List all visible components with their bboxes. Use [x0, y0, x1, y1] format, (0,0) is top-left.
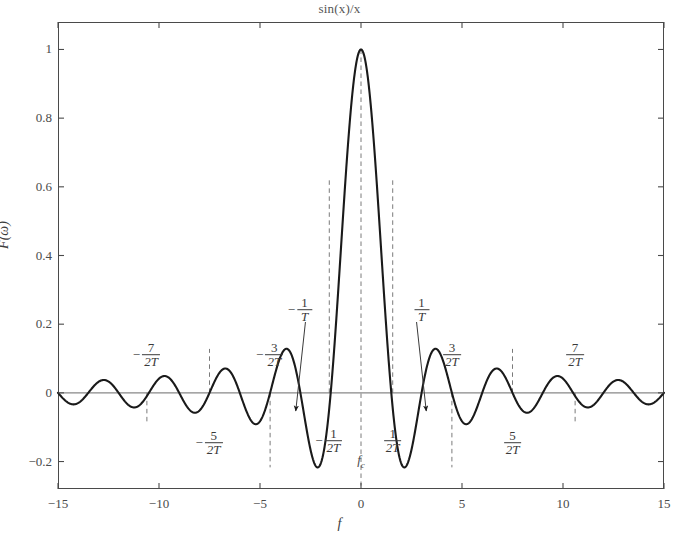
annotation-neg-seven-over-2T: −72T: [133, 341, 161, 369]
y-tick-label: 0.6: [36, 179, 52, 195]
chart-title: sin(x)/x: [0, 1, 679, 17]
annotation-sign: −: [195, 437, 203, 450]
fraction-numerator: 1: [328, 427, 339, 440]
y-tick-label: 0.2: [36, 316, 52, 332]
annotation-content: 1T: [413, 296, 430, 324]
fraction-denominator: 2T: [205, 444, 223, 457]
fc-center-label: fc: [357, 452, 365, 470]
annotation-content: −1T: [288, 296, 313, 324]
fraction: 32T: [264, 341, 284, 369]
annotation-sign: −: [288, 304, 296, 317]
annotation-pos-five-over-2T: 52T: [503, 429, 523, 457]
y-tick-label: 1: [46, 41, 53, 57]
annotation-sign: −: [256, 349, 264, 362]
plot-canvas: [58, 22, 664, 489]
fraction: 52T: [204, 429, 224, 457]
fraction-denominator: 2T: [265, 356, 283, 369]
x-tick-label-4: 5: [459, 496, 466, 512]
annotation-sign: −: [315, 435, 323, 448]
annotation-sign: −: [133, 349, 141, 362]
fraction-denominator: 2T: [504, 444, 522, 457]
annotation-pos-one-over-T: 1T: [413, 296, 430, 324]
fraction-denominator: 2T: [566, 356, 584, 369]
y-tick-label: 0.8: [36, 110, 52, 126]
annotation-content: −72T: [133, 341, 161, 369]
fraction: 52T: [503, 429, 523, 457]
y-tick-label: 0: [46, 385, 53, 401]
annotation-content: 52T: [503, 429, 523, 457]
y-axis-title-text: F(ω): [0, 221, 11, 249]
annotation-neg-one-over-T: −1T: [288, 296, 313, 324]
fraction: 1T: [296, 296, 313, 324]
chart-title-text: sin(x)/x: [318, 1, 360, 16]
y-axis-title: F(ω): [0, 215, 12, 255]
annotation-content: −52T: [195, 429, 223, 457]
y-tick-label: −0.2: [28, 454, 52, 470]
x-axis-title: f: [0, 516, 679, 532]
fraction-denominator: T: [416, 311, 427, 324]
annotation-content: 72T: [565, 341, 585, 369]
fraction-numerator: 1: [416, 296, 427, 309]
x-axis-title-text: f: [338, 516, 342, 531]
chart-page: sin(x)/x 10.80.60.40.20−0.2 −15−10−50510…: [0, 0, 679, 543]
x-tick-label-1: −10: [149, 496, 169, 512]
fraction-denominator: T: [299, 311, 310, 324]
annotation-content: 12T: [383, 427, 403, 455]
y-tick-label: 0.4: [36, 248, 52, 264]
x-tick-label-6: 15: [658, 496, 671, 512]
fraction-denominator: 2T: [142, 356, 160, 369]
fraction: 72T: [565, 341, 585, 369]
annotation-neg-one-over-2T: −12T: [315, 427, 343, 455]
x-tick-label-5: 10: [557, 496, 570, 512]
fraction-numerator: 7: [570, 341, 581, 354]
fc-label-subscript: c: [361, 460, 365, 470]
fraction: 72T: [141, 341, 161, 369]
annotation-neg-three-over-2T: −32T: [256, 341, 284, 369]
annotation-neg-five-over-2T: −52T: [195, 429, 223, 457]
fraction: 12T: [383, 427, 403, 455]
fraction-numerator: 1: [299, 296, 310, 309]
annotation-content: −12T: [315, 427, 343, 455]
annotation-pos-three-over-2T: 32T: [442, 341, 462, 369]
x-tick-label-0: −15: [48, 496, 68, 512]
fraction-numerator: 7: [146, 341, 157, 354]
fraction-numerator: 3: [269, 341, 280, 354]
fraction-numerator: 5: [507, 429, 518, 442]
fraction: 12T: [324, 427, 344, 455]
fraction-numerator: 1: [387, 427, 398, 440]
annotation-pos-seven-over-2T: 72T: [565, 341, 585, 369]
fraction-numerator: 5: [208, 429, 219, 442]
x-tick-label-3: 0: [358, 496, 365, 512]
dashed-guide-lines: [147, 49, 575, 485]
fraction-denominator: 2T: [443, 356, 461, 369]
fraction: 1T: [413, 296, 430, 324]
annotation-pos-one-over-2T: 12T: [383, 427, 403, 455]
fraction: 32T: [442, 341, 462, 369]
fraction-numerator: 3: [447, 341, 458, 354]
fraction-denominator: 2T: [325, 442, 343, 455]
annotation-content: 32T: [442, 341, 462, 369]
fraction-denominator: 2T: [384, 442, 402, 455]
annotation-content: −32T: [256, 341, 284, 369]
x-tick-label-2: −5: [253, 496, 267, 512]
